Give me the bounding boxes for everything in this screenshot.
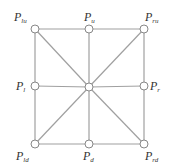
node-label-subscript: r <box>157 86 160 94</box>
edge-l-c <box>35 86 89 87</box>
node-label-subscript: l <box>23 86 25 94</box>
node-d <box>85 140 93 148</box>
node-label-subscript: d <box>90 156 94 164</box>
node-label-u: Pu <box>83 10 95 25</box>
edge-c-rd <box>89 87 144 144</box>
edge-c-r <box>89 86 144 87</box>
grid-diagram: PluPuPruPlPrPldPdPrd <box>0 0 171 168</box>
edge-c-ld <box>35 87 89 144</box>
node-label-subscript: rd <box>152 156 158 164</box>
node-label-l: Pl <box>15 79 25 94</box>
node-label-rd: Prd <box>144 149 159 164</box>
node-label-subscript: lu <box>21 17 27 25</box>
node-ru <box>140 25 148 33</box>
node-label-subscript: ld <box>23 156 29 164</box>
node-label-subscript: u <box>91 17 95 25</box>
node-u <box>85 25 93 33</box>
node-label-subscript: ru <box>152 17 159 25</box>
node-r <box>140 82 148 90</box>
node-label-ru: Pru <box>144 10 159 25</box>
edge-ru-c <box>89 29 144 87</box>
node-rd <box>140 140 148 148</box>
node-label-lu: Plu <box>13 10 27 25</box>
node-label-d: Pd <box>82 149 94 164</box>
node-c <box>85 83 93 91</box>
node-ld <box>31 140 39 148</box>
node-label-ld: Pld <box>15 149 29 164</box>
node-l <box>31 82 39 90</box>
node-label-r: Pr <box>149 79 160 94</box>
node-lu <box>31 25 39 33</box>
edge-lu-c <box>35 29 89 87</box>
